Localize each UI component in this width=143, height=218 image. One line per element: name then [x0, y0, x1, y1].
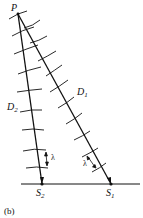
ray-d1 — [18, 14, 111, 184]
point-p-label: P — [10, 2, 17, 13]
ray-d2 — [18, 14, 42, 184]
path-d2-label: D2 — [6, 101, 18, 114]
path-d1-label: D1 — [76, 86, 88, 99]
source-s2-dot — [40, 182, 43, 185]
wavelength-marker-d1 — [87, 156, 96, 168]
panel-label: (b) — [4, 206, 15, 216]
wavelength-label-d1: λ — [83, 159, 87, 168]
source-s1-dot — [109, 182, 112, 185]
wavelength-label-d2: λ — [51, 153, 55, 162]
diagram-canvas: P D1 D2 λ λ S2 S1 (b) — [0, 0, 143, 218]
source-s1-label: S1 — [106, 187, 115, 200]
wavelength-marker-d2 — [45, 152, 49, 166]
source-s2-label: S2 — [36, 187, 45, 200]
